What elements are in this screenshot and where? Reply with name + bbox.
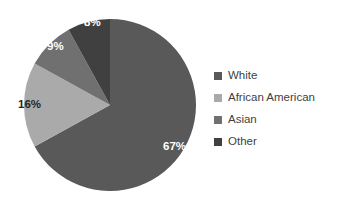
slice-label-asian: 9% bbox=[47, 41, 64, 53]
legend-item-other[interactable]: Other bbox=[214, 132, 337, 151]
square-swatch-icon bbox=[214, 94, 222, 102]
chart-legend: White African American Asian Other bbox=[214, 66, 337, 154]
legend-item-label: African American bbox=[228, 92, 315, 104]
legend-item-label: Asian bbox=[228, 114, 257, 126]
square-swatch-icon bbox=[214, 72, 222, 80]
legend-item-label: White bbox=[228, 70, 257, 82]
legend-item-label: Other bbox=[228, 136, 257, 148]
slice-label-white: 67% bbox=[163, 141, 186, 153]
slice-label-african-american: 16% bbox=[18, 99, 41, 111]
pie-plot-area: 67% 16% 9% 8% bbox=[0, 0, 220, 206]
slice-label-other: 8% bbox=[84, 17, 101, 29]
legend-item-asian[interactable]: Asian bbox=[214, 110, 337, 129]
legend-item-white[interactable]: White bbox=[214, 66, 337, 85]
legend-item-african-american[interactable]: African American bbox=[214, 88, 337, 107]
square-swatch-icon bbox=[214, 138, 222, 146]
square-swatch-icon bbox=[214, 116, 222, 124]
pie-chart-figure: 67% 16% 9% 8% White African American Asi… bbox=[0, 0, 337, 206]
